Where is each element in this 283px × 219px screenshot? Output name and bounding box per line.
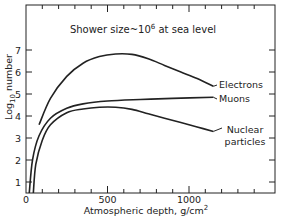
label-particles: particles — [225, 136, 266, 147]
chart: Shower size~106 at sea level 1234567 050… — [0, 0, 283, 219]
x-tick-label: 500 — [98, 194, 116, 205]
x-tick-label: 0 — [23, 194, 29, 205]
chart-title: Shower size~106 at sea level — [70, 23, 216, 35]
curve-muons — [29, 97, 213, 193]
label-nuclear: Nuclear — [227, 124, 264, 135]
y-tick-label: 1 — [15, 177, 21, 188]
x-tick-labels: 05001000 — [23, 194, 201, 205]
x-tick-label: 1000 — [177, 194, 201, 205]
y-tick-labels: 1234567 — [15, 45, 21, 188]
y-tick-label: 3 — [15, 133, 21, 144]
curve-nuclear-particles — [33, 107, 213, 193]
y-tick-label: 6 — [15, 67, 21, 78]
label-muons: Muons — [219, 93, 250, 104]
x-axis-label: Atmospheric depth, g/cm2 — [84, 204, 209, 216]
curves — [29, 54, 222, 193]
label-electrons: Electrons — [219, 79, 263, 90]
y-tick-label: 2 — [15, 155, 21, 166]
y-tick-label: 4 — [15, 111, 21, 122]
y-tick-label: 7 — [15, 45, 21, 56]
